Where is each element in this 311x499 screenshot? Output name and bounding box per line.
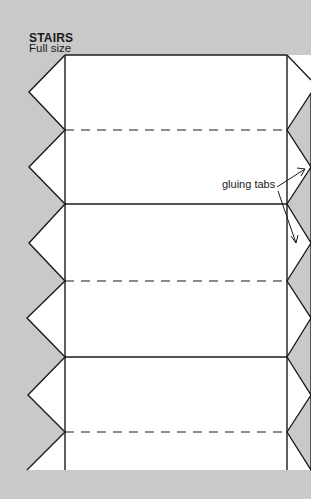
stairs-net-template (0, 0, 311, 499)
page-subtitle: Full size (29, 42, 71, 54)
gluing-tabs-label: gluing tabs (222, 178, 275, 190)
paper-region (27, 55, 311, 470)
